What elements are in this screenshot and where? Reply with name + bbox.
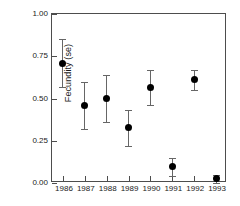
error-bar-cap-lower — [81, 129, 88, 130]
y-tick: 0.25 — [52, 141, 57, 142]
data-marker — [59, 60, 66, 67]
plot-area: Fecundity (se) 0.000.250.500.751.00 1986… — [51, 13, 226, 182]
x-tick: 1989 — [129, 176, 130, 181]
y-tick-label: 0.25 — [32, 136, 48, 145]
x-tick-label: 1988 — [99, 184, 117, 193]
error-bar-cap-lower — [59, 87, 66, 88]
y-tick-label: 1.00 — [32, 9, 48, 18]
x-tick-label: 1991 — [164, 184, 182, 193]
data-marker — [213, 175, 220, 182]
x-tick: 1987 — [85, 176, 86, 181]
chart-figure: Fecundity (se) 0.000.250.500.751.00 1986… — [0, 0, 240, 206]
x-tick-label: 1992 — [186, 184, 204, 193]
x-tick-label: 1986 — [55, 184, 73, 193]
error-bar-cap-upper — [59, 39, 66, 40]
error-bar-cap-upper — [125, 110, 132, 111]
x-tick: 1990 — [150, 176, 151, 181]
data-marker — [81, 102, 88, 109]
data-marker — [125, 124, 132, 131]
error-bar-cap-upper — [103, 75, 110, 76]
data-marker — [169, 163, 176, 170]
x-tick: 1992 — [194, 176, 195, 181]
x-tick: 1988 — [107, 176, 108, 181]
y-tick-label: 0.50 — [32, 94, 48, 103]
data-marker — [191, 76, 198, 83]
error-bar-cap-lower — [103, 122, 110, 123]
x-tick-label: 1993 — [208, 184, 226, 193]
y-tick: 1.00 — [52, 14, 57, 15]
error-bar-cap-upper — [81, 82, 88, 83]
y-tick-label: 0.75 — [32, 51, 48, 60]
x-tick-label: 1990 — [143, 184, 161, 193]
error-bar-cap-lower — [213, 183, 220, 184]
y-tick: 0.75 — [52, 56, 57, 57]
error-bar-cap-lower — [191, 90, 198, 91]
y-tick-label: 0.00 — [32, 178, 48, 187]
error-bar-cap-lower — [147, 105, 154, 106]
error-bar-cap-lower — [125, 146, 132, 147]
error-bar-cap-upper — [147, 70, 154, 71]
x-tick: 1986 — [63, 176, 64, 181]
x-tick-label: 1989 — [121, 184, 139, 193]
y-axis-title: Fecundity (se) — [63, 13, 73, 133]
data-marker — [103, 95, 110, 102]
y-tick: 0.50 — [52, 99, 57, 100]
data-marker — [147, 84, 154, 91]
error-bar-cap-lower — [169, 176, 176, 177]
error-bar-cap-upper — [169, 158, 176, 159]
x-tick-label: 1987 — [77, 184, 95, 193]
error-bar-cap-upper — [191, 70, 198, 71]
